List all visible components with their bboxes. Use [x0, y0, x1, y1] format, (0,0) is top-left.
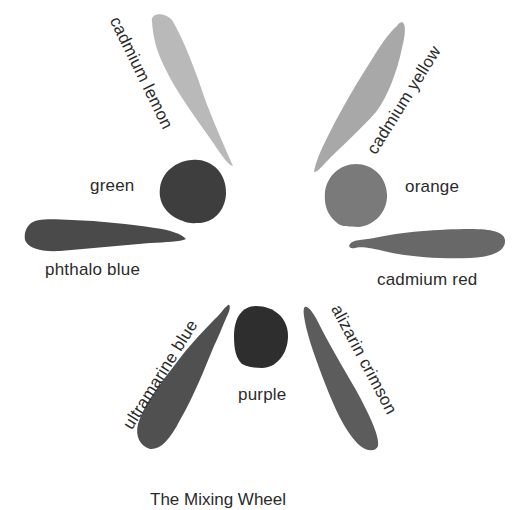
cadmium-lemon-swatch — [152, 14, 233, 166]
orange-swatch — [325, 164, 387, 227]
purple-swatch — [234, 306, 288, 368]
diagram-caption: The Mixing Wheel — [150, 490, 286, 510]
label-green: green — [90, 177, 134, 194]
phthalo-blue-swatch — [25, 219, 186, 251]
label-phthalo-blue: phthalo blue — [45, 261, 140, 278]
cadmium-red-swatch — [349, 229, 505, 258]
cadmium-yellow-swatch — [314, 22, 405, 172]
label-purple: purple — [238, 386, 286, 403]
green-swatch — [160, 160, 226, 223]
label-cadmium-red: cadmium red — [377, 271, 477, 288]
label-orange: orange — [405, 178, 459, 195]
